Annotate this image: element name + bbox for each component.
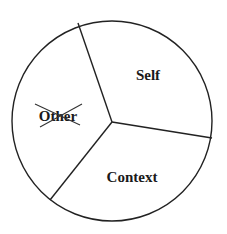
segment-other: Other [35,104,82,127]
segment-self-label: Self [136,67,161,83]
segment-context: Context [107,169,158,185]
self-other-context-diagram: Self Other Context [0,0,227,234]
segment-self: Self [136,67,161,83]
segment-context-label: Context [107,169,158,185]
